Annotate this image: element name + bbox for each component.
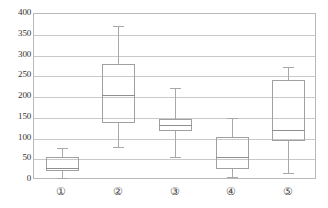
x-tick-label-2: ② — [108, 185, 128, 197]
x-axis-tick-labels: ①②③④⑤ — [0, 0, 328, 208]
x-tick-label-5: ⑤ — [278, 185, 298, 197]
x-tick-label-3: ③ — [165, 185, 185, 197]
x-tick-label-1: ① — [51, 185, 71, 197]
boxplot-chart: 050100150200250300350400 ①②③④⑤ — [0, 0, 328, 208]
x-tick-label-4: ④ — [221, 185, 241, 197]
